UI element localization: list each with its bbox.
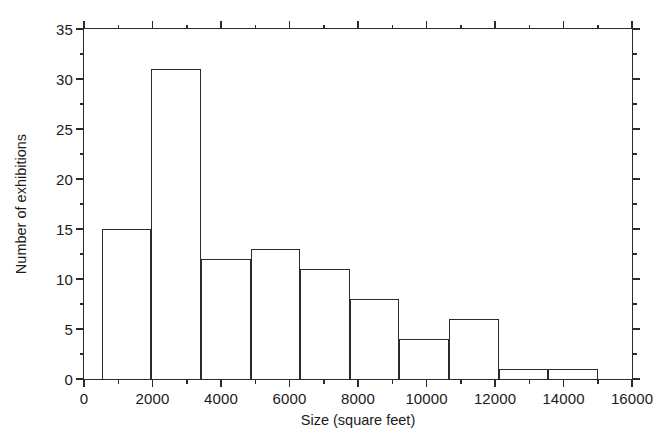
x-axis-minor-tick bbox=[392, 379, 394, 384]
y-axis-minor-tick bbox=[80, 153, 85, 155]
histogram-bar bbox=[201, 259, 251, 379]
x-axis-tick-label: 0 bbox=[80, 390, 88, 407]
y-axis-tick-label: 15 bbox=[56, 221, 73, 238]
x-axis-tick bbox=[357, 379, 359, 387]
x-axis-tick bbox=[426, 379, 428, 387]
x-axis-top-tick bbox=[357, 21, 359, 29]
histogram-bar bbox=[300, 269, 350, 379]
y-axis-minor-tick bbox=[80, 253, 85, 255]
x-axis-top-minor-tick bbox=[529, 25, 531, 30]
x-axis-top-minor-tick bbox=[255, 25, 257, 30]
y-axis-right-minor-tick bbox=[632, 103, 637, 105]
x-axis-tick-label: 4000 bbox=[204, 390, 238, 407]
histogram-bar bbox=[449, 319, 499, 379]
y-axis-tick-label: 25 bbox=[56, 121, 73, 138]
y-axis-tick bbox=[76, 28, 84, 30]
x-axis-minor-tick bbox=[118, 379, 120, 384]
y-axis-tick-label: 30 bbox=[56, 71, 73, 88]
x-axis-top-minor-tick bbox=[460, 25, 462, 30]
y-axis-right-tick bbox=[632, 378, 640, 380]
y-axis-tick bbox=[76, 278, 84, 280]
x-axis-minor-tick bbox=[186, 379, 188, 384]
x-axis-tick bbox=[289, 379, 291, 387]
y-axis-tick bbox=[76, 228, 84, 230]
y-axis-right-tick bbox=[632, 278, 640, 280]
x-axis-top-tick bbox=[563, 21, 565, 29]
y-axis-right-tick bbox=[632, 328, 640, 330]
x-axis-minor-tick bbox=[460, 379, 462, 384]
x-axis-tick bbox=[494, 379, 496, 387]
x-axis-minor-tick bbox=[529, 379, 531, 384]
y-axis-title-text: Number of exhibitions bbox=[13, 134, 29, 274]
y-axis-tick-label: 35 bbox=[56, 21, 73, 38]
x-axis-tick-label: 14000 bbox=[542, 390, 584, 407]
x-axis-title: Size (square feet) bbox=[83, 412, 633, 428]
x-axis-top-tick bbox=[152, 21, 154, 29]
y-axis-right-minor-tick bbox=[632, 253, 637, 255]
plot-area: 0200040006000800010000120001400016000051… bbox=[83, 28, 633, 380]
y-axis-right-tick bbox=[632, 228, 640, 230]
y-axis-tick bbox=[76, 378, 84, 380]
histogram-figure: 0200040006000800010000120001400016000051… bbox=[0, 0, 666, 444]
x-axis-top-minor-tick bbox=[118, 25, 120, 30]
y-axis-right-tick bbox=[632, 78, 640, 80]
x-axis-tick-label: 10000 bbox=[405, 390, 447, 407]
y-axis-right-minor-tick bbox=[632, 203, 637, 205]
histogram-bar bbox=[548, 369, 598, 379]
y-axis-right-minor-tick bbox=[632, 353, 637, 355]
x-axis-tick bbox=[631, 379, 633, 387]
y-axis-tick bbox=[76, 78, 84, 80]
x-axis-top-minor-tick bbox=[186, 25, 188, 30]
y-axis-right-tick bbox=[632, 178, 640, 180]
x-axis-top-tick bbox=[289, 21, 291, 29]
y-axis-title: Number of exhibitions bbox=[12, 28, 30, 380]
x-axis-top-minor-tick bbox=[323, 25, 325, 30]
x-axis-tick-label: 12000 bbox=[474, 390, 516, 407]
x-axis-tick bbox=[563, 379, 565, 387]
x-axis-tick-label: 8000 bbox=[341, 390, 375, 407]
histogram-bar bbox=[251, 249, 301, 379]
x-axis-tick bbox=[220, 379, 222, 387]
histogram-bar bbox=[151, 69, 201, 379]
y-axis-minor-tick bbox=[80, 353, 85, 355]
y-axis-minor-tick bbox=[80, 103, 85, 105]
y-axis-minor-tick bbox=[80, 303, 85, 305]
y-axis-tick bbox=[76, 178, 84, 180]
y-axis-right-tick bbox=[632, 28, 640, 30]
x-axis-tick-label: 6000 bbox=[273, 390, 307, 407]
y-axis-tick bbox=[76, 128, 84, 130]
x-axis-top-tick bbox=[426, 21, 428, 29]
x-axis-tick bbox=[83, 379, 85, 387]
y-axis-tick-label: 20 bbox=[56, 171, 73, 188]
x-axis-tick-label: 16000 bbox=[611, 390, 653, 407]
histogram-bar bbox=[102, 229, 152, 379]
x-axis-top-minor-tick bbox=[392, 25, 394, 30]
y-axis-minor-tick bbox=[80, 53, 85, 55]
y-axis-tick-label: 10 bbox=[56, 271, 73, 288]
x-axis-top-tick bbox=[220, 21, 222, 29]
y-axis-right-tick bbox=[632, 128, 640, 130]
x-axis-minor-tick bbox=[323, 379, 325, 384]
x-axis-top-tick bbox=[494, 21, 496, 29]
histogram-bar bbox=[499, 369, 549, 379]
x-axis-tick-label: 2000 bbox=[136, 390, 170, 407]
x-axis-tick bbox=[152, 379, 154, 387]
y-axis-minor-tick bbox=[80, 203, 85, 205]
y-axis-right-minor-tick bbox=[632, 153, 637, 155]
y-axis-tick-label: 0 bbox=[65, 371, 73, 388]
histogram-bar bbox=[350, 299, 400, 379]
x-axis-minor-tick bbox=[597, 379, 599, 384]
y-axis-tick-label: 5 bbox=[65, 321, 73, 338]
x-axis-top-minor-tick bbox=[597, 25, 599, 30]
y-axis-right-minor-tick bbox=[632, 303, 637, 305]
y-axis-tick bbox=[76, 328, 84, 330]
histogram-bar bbox=[399, 339, 449, 379]
x-axis-minor-tick bbox=[255, 379, 257, 384]
y-axis-right-minor-tick bbox=[632, 53, 637, 55]
